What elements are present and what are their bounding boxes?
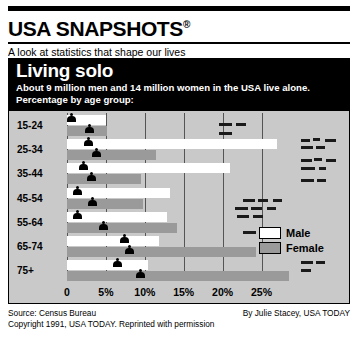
scan-artifact bbox=[235, 207, 248, 210]
scan-artifact bbox=[273, 199, 282, 202]
bar-male-45-54 bbox=[67, 188, 170, 198]
chart-description: About 9 million men and 14 million women… bbox=[16, 81, 336, 105]
chart-plate: 15-2425-3435-4445-5455-6465-7475+05%10%1… bbox=[8, 110, 350, 304]
x-axis-tick-10: 10% bbox=[134, 285, 155, 299]
chart-plot-area: 15-2425-3435-4445-5455-6465-7475+05%10%1… bbox=[9, 111, 349, 303]
chart-title: Living solo bbox=[16, 60, 350, 81]
scan-artifact bbox=[258, 199, 268, 202]
chart-legend: Male Female bbox=[259, 227, 345, 257]
person-marker-male-15-24 bbox=[67, 113, 76, 123]
person-marker-female-75plus bbox=[136, 269, 145, 279]
scan-artifact bbox=[243, 231, 256, 234]
legend-label-female: Female bbox=[286, 242, 324, 254]
person-marker-female-35-44 bbox=[87, 172, 96, 182]
scan-artifact bbox=[236, 123, 246, 126]
scan-artifact bbox=[301, 167, 315, 170]
scan-artifact bbox=[301, 159, 312, 162]
footer-source: Source: Census Bureau bbox=[8, 308, 96, 319]
scan-artifact bbox=[301, 139, 310, 142]
bar-female-35-44 bbox=[67, 174, 141, 184]
legend-label-male: Male bbox=[286, 227, 310, 239]
age-group-label-75plus: 75+ bbox=[17, 260, 59, 282]
x-axis-tick-15: 15% bbox=[173, 285, 194, 299]
scan-artifact bbox=[267, 207, 276, 210]
scan-artifact bbox=[326, 159, 336, 162]
scan-artifact bbox=[301, 179, 314, 182]
scan-artifact bbox=[219, 123, 232, 126]
scan-artifact bbox=[253, 215, 263, 218]
chart-banner: Living solo About 9 million men and 14 m… bbox=[8, 58, 350, 110]
x-axis: 05%10%15%20%25% bbox=[9, 285, 349, 299]
person-marker-female-15-24 bbox=[85, 124, 94, 134]
scan-artifact bbox=[317, 179, 326, 182]
scan-artifact bbox=[301, 146, 313, 149]
person-marker-female-25-34 bbox=[92, 148, 101, 158]
bar-female-65-74 bbox=[67, 247, 256, 257]
footer-credit: By Julie Stacey, USA TODAY bbox=[243, 308, 350, 319]
person-marker-male-65-74 bbox=[120, 234, 129, 244]
scan-artifact bbox=[319, 167, 326, 170]
bar-female-55-64 bbox=[67, 223, 177, 233]
legend-swatch-male-icon bbox=[259, 227, 281, 239]
legend-item-female: Female bbox=[259, 242, 345, 254]
age-group-label-45-54: 45-54 bbox=[17, 188, 59, 210]
footer: Source: Census Bureau By Julie Stacey, U… bbox=[8, 308, 350, 330]
legend-item-male: Male bbox=[259, 227, 345, 239]
scan-artifact bbox=[237, 215, 249, 218]
scan-artifact bbox=[316, 146, 325, 149]
masthead: USA SNAPSHOTS® A look at statistics that… bbox=[8, 6, 350, 59]
age-group-label-25-34: 25-34 bbox=[17, 139, 59, 161]
scan-artifact bbox=[243, 199, 255, 202]
scan-artifact bbox=[219, 132, 232, 135]
scan-artifact bbox=[314, 158, 322, 161]
scan-artifact bbox=[316, 261, 325, 264]
chart-row: 35-44 bbox=[9, 163, 349, 185]
person-marker-male-35-44 bbox=[79, 161, 88, 171]
bar-female-45-54 bbox=[67, 199, 143, 209]
x-axis-tick-25: 25% bbox=[251, 285, 272, 299]
age-group-label-65-74: 65-74 bbox=[17, 236, 59, 258]
x-axis-tick-5: 5% bbox=[98, 285, 113, 299]
bar-female-75plus bbox=[67, 271, 289, 281]
bar-female-25-34 bbox=[67, 150, 156, 160]
x-axis-tick-20: 20% bbox=[212, 285, 233, 299]
chart-row: 15-24 bbox=[9, 115, 349, 137]
person-marker-male-55-64 bbox=[73, 210, 82, 220]
legend-swatch-female-icon bbox=[259, 242, 281, 254]
person-marker-male-75plus bbox=[113, 258, 122, 268]
masthead-top-rule bbox=[8, 6, 350, 11]
footer-row-source: Source: Census Bureau By Julie Stacey, U… bbox=[8, 308, 350, 319]
person-marker-female-55-64 bbox=[99, 221, 108, 231]
age-group-label-15-24: 15-24 bbox=[17, 115, 59, 137]
footer-row-copyright: Copyright 1991, USA TODAY. Reprinted wit… bbox=[8, 319, 350, 330]
masthead-title-text: USA SNAPSHOTS bbox=[8, 17, 183, 40]
person-marker-male-45-54 bbox=[73, 186, 82, 196]
age-group-label-35-44: 35-44 bbox=[17, 163, 59, 185]
chart-row: 25-34 bbox=[9, 139, 349, 161]
scan-artifact bbox=[301, 269, 311, 272]
masthead-tagline: A look at statistics that shape our live… bbox=[8, 44, 350, 59]
person-marker-male-25-34 bbox=[84, 137, 93, 147]
masthead-title: USA SNAPSHOTS® bbox=[8, 14, 350, 40]
chart-row: 45-54 bbox=[9, 188, 349, 210]
registered-trademark-icon: ® bbox=[183, 19, 190, 30]
chart-row: 75+ bbox=[9, 260, 349, 282]
age-group-label-55-64: 55-64 bbox=[17, 212, 59, 234]
person-marker-female-45-54 bbox=[88, 197, 97, 207]
x-axis-tick-0: 0 bbox=[64, 285, 70, 299]
scan-artifact bbox=[301, 261, 313, 264]
scan-artifact bbox=[325, 139, 336, 142]
bar-male-65-74 bbox=[67, 236, 159, 246]
footer-copyright: Copyright 1991, USA TODAY. Reprinted wit… bbox=[8, 319, 214, 330]
scan-artifact bbox=[251, 207, 262, 210]
person-marker-female-65-74 bbox=[125, 245, 134, 255]
scan-artifact bbox=[313, 138, 320, 141]
